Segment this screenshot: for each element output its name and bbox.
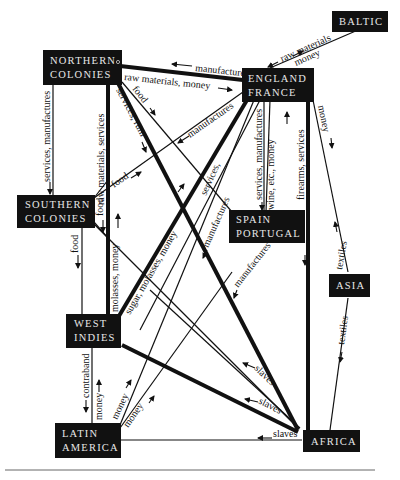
- svg-text:BALTIC: BALTIC: [339, 16, 383, 27]
- svg-text:ASIA: ASIA: [336, 280, 365, 291]
- label-ef-sp-wine: wine, etc., money: [265, 139, 276, 210]
- label-sc-food-wi: food: [94, 198, 105, 216]
- svg-text:COLONIES: COLONIES: [25, 213, 87, 224]
- node-england-france: ENGLAND FRANCE: [242, 68, 314, 102]
- svg-text:LATIN: LATIN: [62, 428, 98, 439]
- svg-text:ENGLAND: ENGLAND: [248, 73, 307, 84]
- label-sp-manufactures: manufactures: [231, 240, 273, 289]
- label-sc-food-down: food: [69, 235, 80, 253]
- node-latin-america: LATIN AMERICA: [55, 423, 121, 458]
- node-northern-colonies: NORTHERN COLONIES: [43, 50, 122, 85]
- svg-text:SOUTHERN: SOUTHERN: [25, 199, 91, 210]
- label-asia-textiles-down: textiles: [335, 315, 350, 345]
- svg-text:AFRICA: AFRICA: [311, 436, 357, 447]
- svg-text:COLONIES: COLONIES: [50, 69, 112, 80]
- label-slaves-3: slaves: [273, 428, 298, 439]
- label-nc-wi: raw materials, services: [95, 114, 106, 205]
- node-spain-portugal: SPAIN PORTUGAL: [229, 210, 305, 243]
- node-baltic: BALTIC: [332, 11, 388, 32]
- svg-text:PORTUGAL: PORTUGAL: [236, 228, 301, 239]
- svg-text:INDIES: INDIES: [74, 332, 116, 343]
- label-contraband: contraband: [80, 354, 91, 398]
- node-asia: ASIA: [329, 274, 370, 297]
- label-nc-sc: services, manufactures: [41, 91, 52, 182]
- label-wi-molasses: molasses, money: [109, 244, 120, 312]
- label-sc-food-ef: food: [109, 170, 130, 190]
- label-ef-africa: firearms, services: [295, 129, 306, 200]
- svg-text:FRANCE: FRANCE: [248, 87, 297, 98]
- label-ef-manufactures-down: manufactures: [200, 195, 232, 249]
- svg-text:NORTHERN: NORTHERN: [50, 55, 116, 66]
- svg-text:AMERICA: AMERICA: [62, 442, 119, 453]
- svg-text:WEST: WEST: [74, 318, 107, 329]
- node-west-indies: WEST INDIES: [66, 314, 121, 348]
- route-sc-wi-b: [94, 222, 108, 238]
- node-southern-colonies: SOUTHERN COLONIES: [17, 195, 95, 228]
- label-ef-sp-services: services, manufactures: [253, 109, 264, 200]
- label-wi-la-money: money: [93, 393, 104, 420]
- svg-text:SPAIN: SPAIN: [236, 214, 271, 225]
- triangular-trade-diagram: manufactures raw materials, money raw ma…: [0, 0, 400, 480]
- node-africa: AFRICA: [303, 430, 360, 452]
